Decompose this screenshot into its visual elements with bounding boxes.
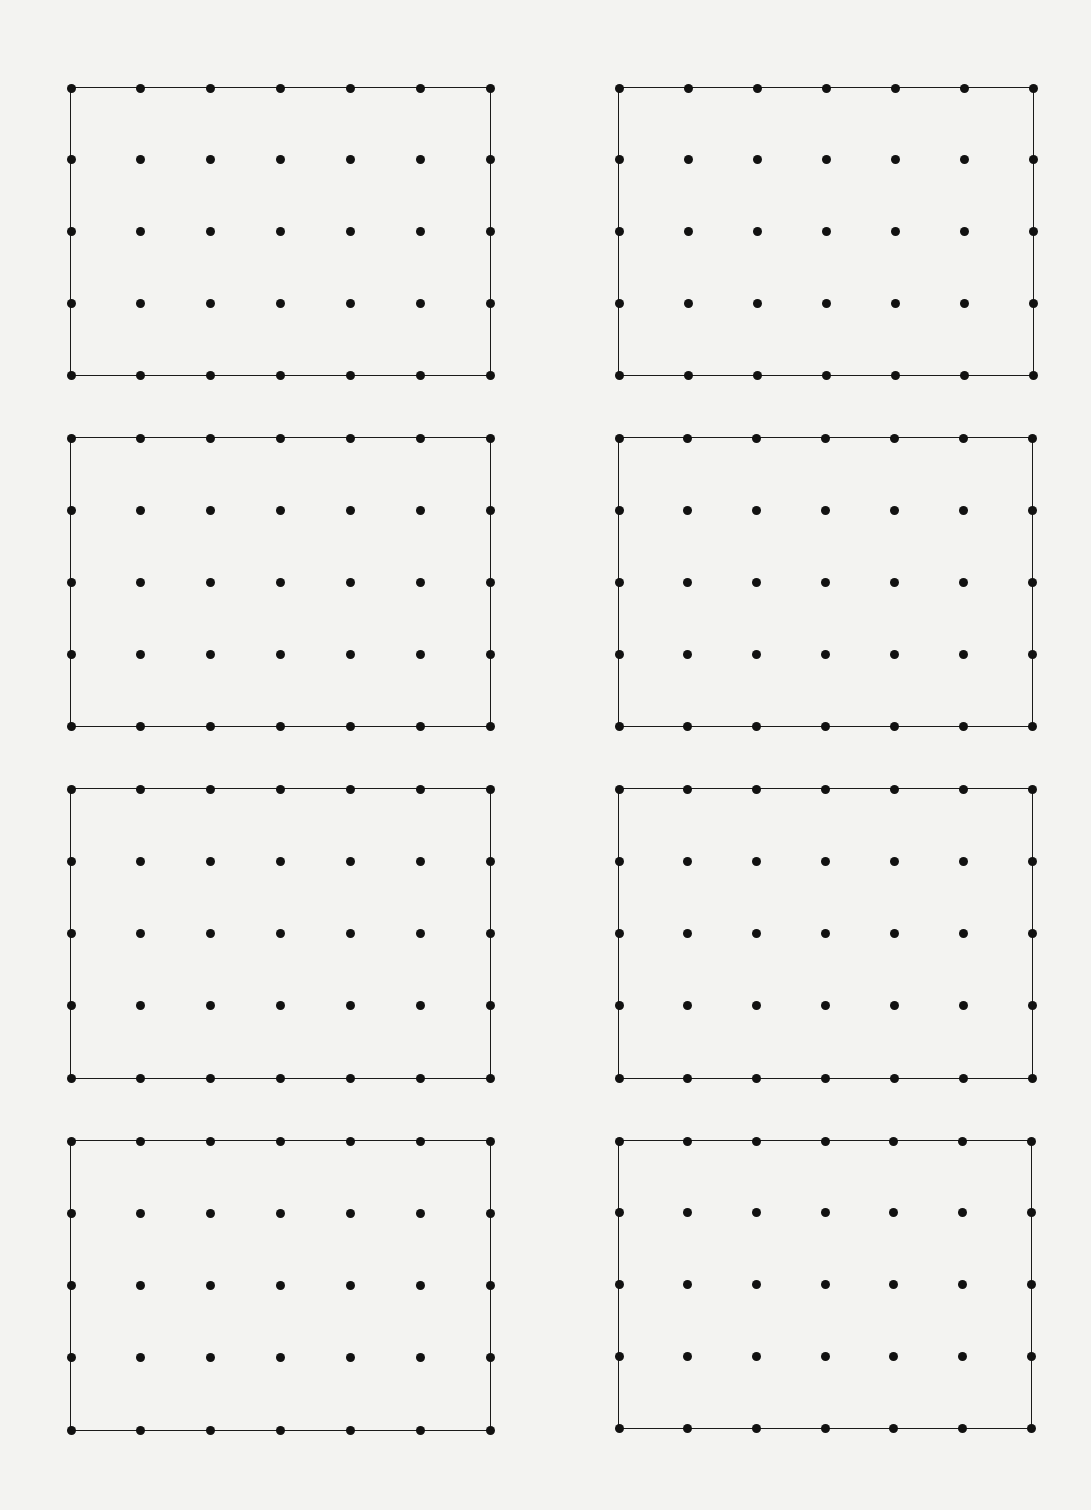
peg-dot [276, 1074, 285, 1083]
peg-dot [684, 84, 693, 93]
peg-dot [822, 84, 831, 93]
peg-dot [67, 1137, 76, 1146]
peg-dot [615, 785, 624, 794]
peg-dot [67, 857, 76, 866]
peg-dot [615, 1352, 624, 1361]
peg-dot [822, 299, 831, 308]
peg-dot [416, 578, 425, 587]
peg-dot [416, 1074, 425, 1083]
peg-dot [752, 857, 761, 866]
peg-dot [683, 1074, 692, 1083]
peg-dot [416, 929, 425, 938]
peg-dot [890, 1074, 899, 1083]
peg-dot [67, 371, 76, 380]
peg-dot [67, 1426, 76, 1435]
peg-dot [1028, 722, 1037, 731]
peg-dot [416, 1426, 425, 1435]
peg-dot [960, 371, 969, 380]
peg-dot [822, 371, 831, 380]
peg-dot [346, 650, 355, 659]
peg-dot [753, 299, 762, 308]
peg-dot [276, 929, 285, 938]
peg-dot [615, 1074, 624, 1083]
peg-dot [67, 434, 76, 443]
peg-dot [346, 578, 355, 587]
peg-dot [891, 84, 900, 93]
peg-dot [959, 1001, 968, 1010]
peg-dot [615, 227, 624, 236]
peg-dot [1027, 1280, 1036, 1289]
peg-dot [753, 84, 762, 93]
peg-dot [67, 578, 76, 587]
peg-dot [416, 506, 425, 515]
peg-dot [486, 1001, 495, 1010]
peg-dot [683, 785, 692, 794]
peg-dot [753, 227, 762, 236]
peg-dot [959, 578, 968, 587]
peg-dot [276, 1426, 285, 1435]
peg-dot [959, 929, 968, 938]
peg-dot [1028, 1001, 1037, 1010]
peg-dot [890, 929, 899, 938]
peg-dot [276, 1209, 285, 1218]
peg-dot [959, 506, 968, 515]
peg-dot [136, 506, 145, 515]
peg-dot [416, 371, 425, 380]
peg-dot [1028, 578, 1037, 587]
peg-dot [486, 299, 495, 308]
peg-dot [67, 650, 76, 659]
peg-dot [206, 84, 215, 93]
geoboard-row1-right [619, 88, 1033, 375]
peg-dot [486, 722, 495, 731]
peg-dot [67, 1074, 76, 1083]
peg-dot [960, 155, 969, 164]
peg-dot [346, 785, 355, 794]
peg-dot [683, 1352, 692, 1361]
peg-dot [416, 434, 425, 443]
peg-dot [67, 84, 76, 93]
peg-dot [1029, 299, 1038, 308]
peg-dot [416, 155, 425, 164]
peg-dot [960, 227, 969, 236]
peg-dot [346, 1074, 355, 1083]
peg-dot [752, 1424, 761, 1433]
peg-dot [136, 371, 145, 380]
peg-dot [346, 929, 355, 938]
peg-dot [486, 506, 495, 515]
peg-dot [752, 722, 761, 731]
peg-dot [615, 506, 624, 515]
peg-dot [276, 371, 285, 380]
peg-dot [821, 650, 830, 659]
peg-dot [959, 1074, 968, 1083]
peg-dot [821, 1208, 830, 1217]
peg-dot [821, 1352, 830, 1361]
peg-dot [822, 155, 831, 164]
peg-dot [486, 785, 495, 794]
peg-dot [1029, 84, 1038, 93]
peg-dot [416, 722, 425, 731]
peg-dot [416, 785, 425, 794]
peg-dot [615, 299, 624, 308]
peg-dot [752, 1137, 761, 1146]
peg-dot [276, 434, 285, 443]
peg-dot [486, 929, 495, 938]
peg-dot [684, 371, 693, 380]
peg-dot [206, 299, 215, 308]
peg-dot [206, 1074, 215, 1083]
peg-dot [276, 506, 285, 515]
peg-dot [67, 155, 76, 164]
peg-dot [821, 722, 830, 731]
geoboard-row3-right [619, 789, 1032, 1078]
peg-dot [752, 785, 761, 794]
peg-dot [136, 722, 145, 731]
peg-dot [959, 857, 968, 866]
peg-dot [346, 857, 355, 866]
peg-dot [959, 650, 968, 659]
peg-dot [615, 650, 624, 659]
peg-dot [416, 650, 425, 659]
peg-dot [346, 506, 355, 515]
peg-dot [416, 1353, 425, 1362]
peg-dot [684, 227, 693, 236]
peg-dot [890, 650, 899, 659]
peg-dot [416, 84, 425, 93]
